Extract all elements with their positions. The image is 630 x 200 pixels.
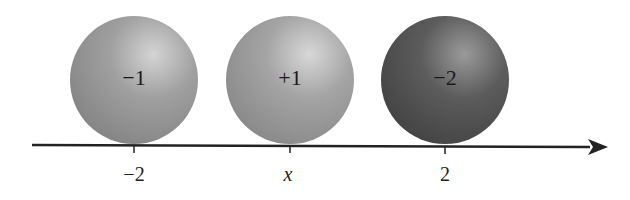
axis-arrow-icon	[588, 139, 608, 155]
position-label-3: 2	[440, 163, 450, 186]
position-label-2: x	[284, 163, 293, 186]
charge-label-1: −1	[122, 65, 145, 91]
charge-label-2: +1	[278, 65, 301, 91]
axis-line	[32, 145, 590, 147]
charge-label-3: −2	[433, 65, 456, 91]
number-line-diagram	[0, 0, 630, 200]
position-label-1: −2	[123, 163, 144, 186]
